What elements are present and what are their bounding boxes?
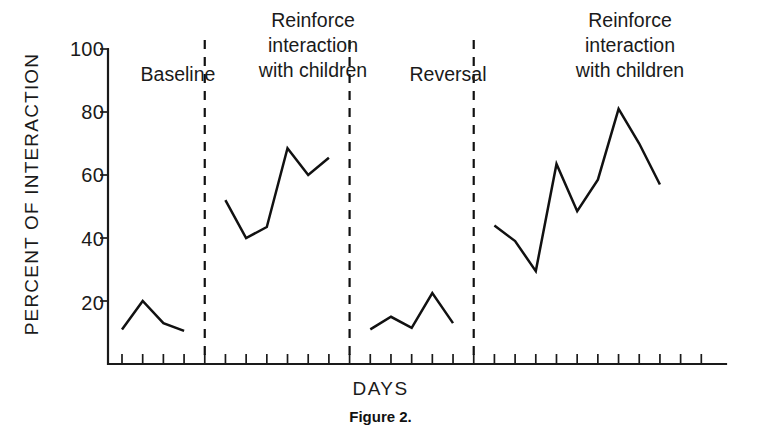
tick-marks-group (122, 354, 701, 364)
phase-label-reinforce-2: Reinforceinteractionwith children (545, 8, 715, 83)
x-axis-title: DAYS (0, 378, 761, 400)
y-tick-label-20: 20 (52, 292, 104, 315)
phase-label-reinforce-2-line3: with children (576, 59, 684, 81)
phase-label-reinforce-1: Reinforceinteractionwith children (240, 8, 386, 83)
y-tick-label-80: 80 (52, 101, 104, 124)
phase-label-reinforce-1-line2: interaction (268, 34, 358, 56)
y-axis-title: PERCENT OF INTERACTION (21, 44, 43, 344)
y-tick-label-100: 100 (52, 38, 104, 61)
figure-caption: Figure 2. (0, 408, 761, 425)
phase-label-reinforce-1-line3: with children (259, 59, 367, 81)
phase-dividers-group (205, 40, 474, 362)
y-tick-label-40: 40 (52, 228, 104, 251)
phase-label-reinforce-2-line1: Reinforce (588, 9, 671, 31)
phase-label-reversal: Reversal (390, 62, 506, 87)
phase-label-reinforce-1-line1: Reinforce (271, 9, 354, 31)
figure-container: 100 80 60 40 20 PERCENT OF INTERACTION B… (0, 0, 761, 448)
data-line-reversal (370, 293, 453, 329)
axes-group (100, 49, 726, 364)
y-tick-label-60: 60 (52, 164, 104, 187)
data-line-baseline (122, 301, 184, 331)
phase-label-reinforce-2-line2: interaction (585, 34, 675, 56)
phase-label-baseline: Baseline (122, 62, 234, 87)
data-line-reinforce-2 (494, 109, 660, 271)
data-series-group (122, 109, 660, 331)
data-line-reinforce-1 (225, 148, 329, 238)
